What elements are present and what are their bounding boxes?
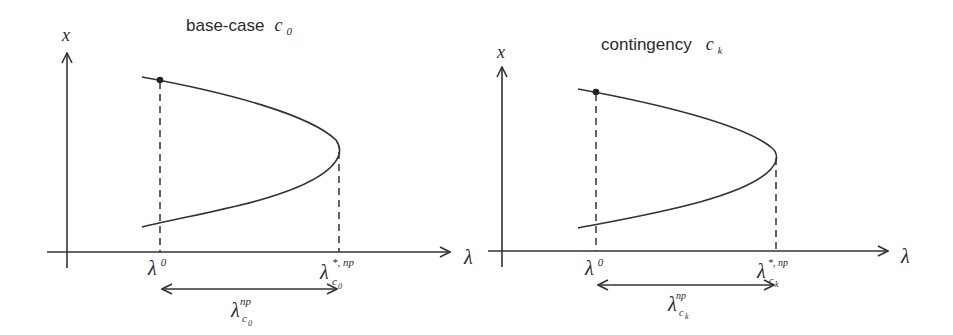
margin-label: λ np c 0 [230,295,252,328]
svg-text:λ: λ [319,261,329,283]
svg-text:λ: λ [756,260,766,282]
svg-text:k: k [685,312,689,321]
tick-label-lambda-star: λ *, np c k [756,257,788,289]
svg-text:c: c [679,307,684,318]
y-axis-label: x [61,25,70,45]
svg-text:np: np [676,290,686,301]
y-axis-label: x [496,42,505,62]
svg-text:np: np [240,295,252,307]
nose-curve [142,77,340,227]
svg-text:k: k [775,280,779,289]
tick-label-lambda-star: λ *, np c 0 [319,256,355,291]
tick-label-lambda0: λ 0 [584,256,604,279]
svg-text:λ: λ [230,299,240,321]
svg-text:*, np: *, np [768,257,788,268]
pv-curve-diagram: base-case c 0 x λ λ 0 λ *, np c 0 λ np c… [0,0,953,335]
svg-text:*, np: *, np [332,256,355,268]
tick-label-lambda0: λ 0 [147,256,167,279]
panel-title: base-case c 0 [186,15,292,37]
x-axis-label: λ [463,246,473,268]
nose-curve [578,89,777,228]
panel-title: contingency c k [601,34,723,56]
margin-label: λ np c k [667,290,689,321]
svg-text:0: 0 [248,319,252,328]
x-axis-label: λ [900,245,910,267]
svg-text:c: c [242,312,247,324]
panel-contingency: contingency c k x λ λ 0 λ *, np c k λ np… [488,34,910,321]
panel-base-case: base-case c 0 x λ λ 0 λ *, np c 0 λ np c… [47,15,473,328]
svg-text:0: 0 [338,282,342,291]
svg-text:c: c [332,275,337,287]
